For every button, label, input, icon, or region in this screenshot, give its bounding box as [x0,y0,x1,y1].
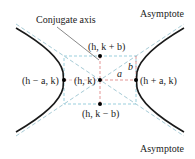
top-point [98,54,102,58]
center-point-label: (h, k) [74,75,96,87]
a-label: a [117,68,122,79]
asymptote-bottom-label: Asymptote [140,143,184,154]
right-vertex-label: (h + a, k) [140,75,177,87]
left-vertex-point [62,78,66,82]
left-vertex-label: (h − a, k) [22,75,59,87]
right-vertex-point [134,78,138,82]
bottom-point [98,102,102,106]
center-point [98,78,102,82]
bottom-point-label: (h, k − b) [82,108,119,120]
b-label: b [128,61,133,72]
conjugate-axis-label: Conjugate axis [36,14,96,25]
top-point-label: (h, k + b) [88,41,125,53]
asymptote-top-label: Asymptote [140,8,184,19]
hyperbola-diagram: Conjugate axis Asymptote Asymptote (h, k… [0,0,195,159]
